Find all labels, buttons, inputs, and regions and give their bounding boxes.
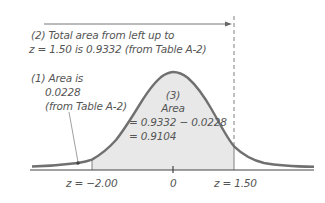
- total-area-label-line2: z = 1.50 is 0.9332 (from Table A-2): [29, 43, 206, 56]
- total-area-label-line1: (2) Total area from left up to: [31, 29, 174, 42]
- pointer-dot: [76, 161, 80, 165]
- middle-area-label-line4: = 0.9104: [129, 130, 176, 143]
- tick-label-center: 0: [170, 177, 176, 190]
- left-area-label-line1: (1) Area is: [31, 72, 83, 85]
- left-area-pointer: [69, 112, 78, 162]
- left-area-label-line2: 0.0228: [45, 86, 81, 99]
- middle-area-label-line3: = 0.9332 − 0.0228: [129, 116, 227, 129]
- middle-area-label-line1: (3): [158, 89, 188, 102]
- arrowhead-icon: [225, 22, 232, 27]
- tick-label-left: z = −2.00: [66, 177, 117, 190]
- left-area-label-line3: (from Table A-2): [45, 100, 127, 113]
- tick-label-right: z = 1.50: [214, 177, 257, 190]
- normal-curve-diagram: (2) Total area from left up to z = 1.50 …: [0, 0, 325, 203]
- middle-area-label-line2: Area: [153, 102, 193, 115]
